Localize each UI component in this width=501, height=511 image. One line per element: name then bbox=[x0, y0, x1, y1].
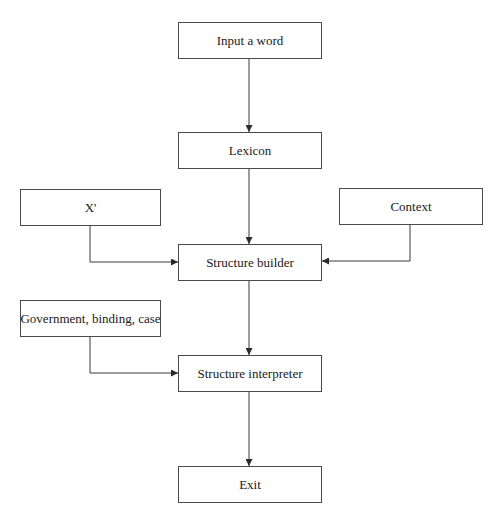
node-label: Government, binding, case bbox=[20, 311, 160, 327]
node-label: Structure interpreter bbox=[197, 366, 302, 382]
node-x-bar: X' bbox=[20, 189, 161, 226]
edge-context-to-builder bbox=[322, 224, 410, 261]
edge-xbar-to-builder bbox=[90, 226, 178, 262]
node-label: Input a word bbox=[217, 33, 283, 49]
node-label: Lexicon bbox=[229, 143, 272, 159]
node-structure-builder: Structure builder bbox=[178, 244, 322, 281]
node-lexicon: Lexicon bbox=[178, 132, 322, 169]
node-label: Context bbox=[390, 199, 431, 215]
edge-gbc-to-interpreter bbox=[90, 337, 178, 373]
node-input-a-word: Input a word bbox=[178, 22, 322, 59]
node-structure-interpreter: Structure interpreter bbox=[178, 355, 322, 392]
flowchart-canvas: Input a word Lexicon X' Context Structur… bbox=[0, 0, 501, 511]
node-context: Context bbox=[339, 188, 483, 225]
node-label: X' bbox=[85, 200, 97, 216]
node-label: Exit bbox=[239, 477, 261, 493]
node-exit: Exit bbox=[178, 466, 322, 503]
node-government-binding-case: Government, binding, case bbox=[20, 300, 161, 337]
node-label: Structure builder bbox=[206, 255, 294, 271]
